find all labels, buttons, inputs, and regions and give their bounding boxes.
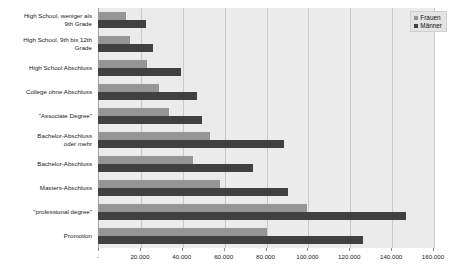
bar-frauen <box>98 108 169 116</box>
legend-label: Männer <box>420 22 442 29</box>
category-label: High School Abschluss <box>0 56 95 80</box>
bar-maenner <box>98 44 153 52</box>
legend-swatch-icon <box>414 16 418 20</box>
category-label: "Associate Degree" <box>0 104 95 128</box>
x-axis-tick-label: 60.000 <box>214 253 233 260</box>
category-label: Promotion <box>0 224 95 248</box>
bar-group <box>98 56 433 80</box>
bar-group <box>98 80 433 104</box>
x-axis-tick <box>307 248 308 251</box>
x-axis-tick-label: 100.000 <box>296 253 318 260</box>
bar-frauen <box>98 12 126 20</box>
bar-frauen <box>98 132 210 140</box>
bar-group <box>98 176 433 200</box>
bar-frauen <box>98 84 159 92</box>
bar-maenner <box>98 116 202 124</box>
gridline <box>434 8 435 248</box>
chart-legend: FrauenMänner <box>410 11 447 32</box>
x-axis-tick-label: 20.000 <box>130 253 149 260</box>
x-axis-tick-label: 80.000 <box>256 253 275 260</box>
category-label: High School, 9th bis 12thGrade <box>0 32 95 56</box>
x-axis-tick-label: 160.000 <box>422 253 444 260</box>
bars-container <box>98 8 433 248</box>
x-axis-tick <box>391 248 392 251</box>
bar-maenner <box>98 20 146 28</box>
category-axis-labels: High School, weniger als9th GradeHigh Sc… <box>0 8 95 248</box>
bar-maenner <box>98 140 284 148</box>
bar-chart: High School, weniger als9th GradeHigh Sc… <box>0 0 453 278</box>
bar-maenner <box>98 188 288 196</box>
bar-maenner <box>98 92 197 100</box>
bar-maenner <box>98 164 253 172</box>
bar-frauen <box>98 36 130 44</box>
category-label: Masters-Abschluss <box>0 176 95 200</box>
x-axis-tick <box>182 248 183 251</box>
legend-label: Frauen <box>420 14 440 21</box>
bar-frauen <box>98 204 307 212</box>
legend-swatch-icon <box>414 24 418 28</box>
category-label: Bachelor-Abschlussoder mehr <box>0 128 95 152</box>
legend-item: Frauen <box>414 14 442 21</box>
x-axis-tick <box>140 248 141 251</box>
bar-maenner <box>98 236 363 244</box>
category-label: College ohne Abschluss <box>0 80 95 104</box>
category-label: "professional degree" <box>0 200 95 224</box>
x-axis-tick <box>433 248 434 251</box>
x-axis-tick-label: 40.000 <box>172 253 191 260</box>
bar-group <box>98 128 433 152</box>
category-label: High School, weniger als9th Grade <box>0 8 95 32</box>
x-axis: -20.00040.00060.00080.000100.000120.0001… <box>98 248 433 278</box>
bar-group <box>98 224 433 248</box>
bar-group <box>98 200 433 224</box>
x-axis-tick <box>266 248 267 251</box>
bar-maenner <box>98 212 406 220</box>
x-axis-tick-label: - <box>97 253 99 260</box>
category-label: Bachelor-Abschluss <box>0 152 95 176</box>
x-axis-tick-label: 120.000 <box>338 253 360 260</box>
bar-frauen <box>98 228 267 236</box>
x-axis-tick-label: 140.000 <box>380 253 402 260</box>
bar-group <box>98 32 433 56</box>
bar-frauen <box>98 156 193 164</box>
bar-frauen <box>98 180 220 188</box>
x-axis-tick <box>98 248 99 251</box>
bar-group <box>98 152 433 176</box>
x-axis-tick <box>349 248 350 251</box>
bar-group <box>98 104 433 128</box>
bar-group <box>98 8 433 32</box>
bar-maenner <box>98 68 181 76</box>
bar-frauen <box>98 60 147 68</box>
x-axis-tick <box>224 248 225 251</box>
legend-item: Männer <box>414 22 442 29</box>
